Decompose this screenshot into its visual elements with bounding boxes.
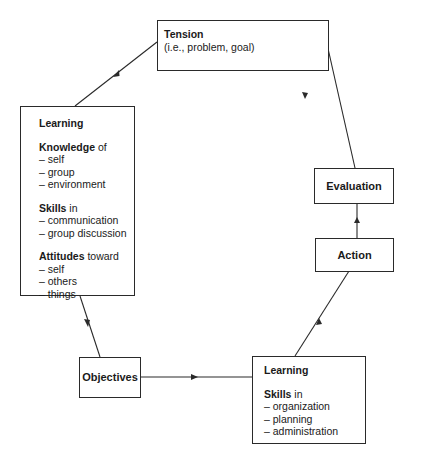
skills-item: – group discussion [39,227,134,240]
tension-title: Tension [164,28,328,41]
action-label: Action [337,249,371,262]
knowledge-item: – environment [39,178,134,191]
knowledge-heading: Knowledge of [39,141,134,154]
arrow-evaluation-to-tension [302,92,308,99]
attitudes-item: – things [39,288,134,301]
evaluation-box: Evaluation [314,168,394,204]
skills-item: – organization [264,400,365,413]
action-box: Action [315,238,394,272]
learning-left-title: Learning [39,117,134,130]
attitudes-item: – others [39,275,134,288]
learning-left-box: Learning Knowledge of – self – group – e… [20,106,135,296]
tension-box: Tension (i.e., problem, goal) [157,20,329,71]
skills-item: – communication [39,214,134,227]
attitudes-item: – self [39,263,134,276]
learning-right-title: Learning [264,364,365,377]
arrow-tension-to-learning [113,70,120,77]
skills-item: – planning [264,413,365,426]
arrow-learning-to-objectives [84,319,90,327]
learning-right-box: Learning Skills in – organization – plan… [252,356,366,444]
attitudes-heading: Attitudes toward [39,250,134,263]
skills-heading: Skills in [39,202,134,215]
skills-heading: Skills in [264,388,365,401]
arrow-action-to-evaluation [354,217,360,223]
knowledge-item: – group [39,166,134,179]
objectives-box: Objectives [79,357,141,398]
arrow-objectives-to-learning [191,374,198,380]
evaluation-label: Evaluation [326,180,382,193]
tension-subtitle: (i.e., problem, goal) [164,41,328,54]
skills-item: – administration [264,425,365,438]
objectives-label: Objectives [82,371,138,384]
knowledge-item: – self [39,153,134,166]
